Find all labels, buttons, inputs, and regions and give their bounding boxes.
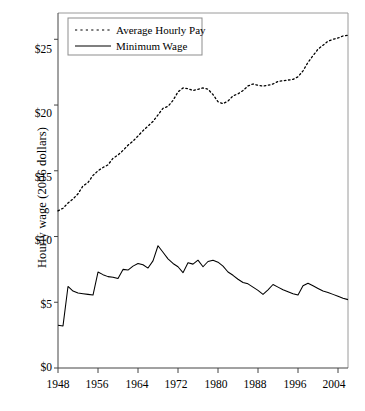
legend-label-minimum-wage: Minimum Wage — [116, 40, 187, 52]
data-series-layer — [58, 35, 348, 326]
series-line-minimum-wage — [58, 246, 348, 326]
chart-legend: Average Hourly Pay Minimum Wage — [68, 18, 206, 55]
wage-line-chart: Hourly wage (2006 dollars) $25 $20 $15 $… — [0, 0, 365, 411]
plot-area: Average Hourly Pay Minimum Wage — [0, 0, 365, 411]
legend-label-average-hourly-pay: Average Hourly Pay — [116, 24, 206, 36]
series-line-average-hourly-pay — [58, 35, 348, 211]
axis-ticks — [54, 39, 338, 373]
plot-frame — [58, 13, 348, 368]
